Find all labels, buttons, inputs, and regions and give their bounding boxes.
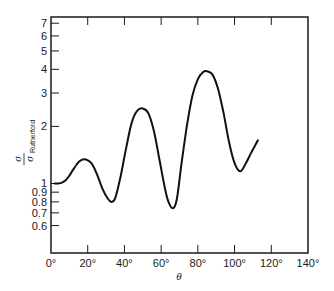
x-tick-label: 20° [79, 257, 96, 269]
x-tick-label: 120° [260, 257, 283, 269]
y-tick-label: 0.6 [32, 220, 47, 232]
data-series-line [55, 71, 258, 209]
y-label-denominator: σ [23, 156, 35, 162]
x-tick-label: 0° [46, 257, 57, 269]
y-tick-label: 6 [41, 30, 47, 42]
x-axis-ticks: 0°20°40°60°80°100°120°140° [46, 17, 320, 269]
y-tick-label: 5 [41, 45, 47, 57]
y-tick-label: 4 [41, 63, 47, 75]
y-label-subscript: Rutherford [29, 120, 36, 153]
x-tick-label: 60° [153, 257, 170, 269]
x-tick-label: 100° [223, 257, 246, 269]
y-tick-label: 2 [41, 120, 47, 132]
y-tick-label: 1 [41, 177, 47, 189]
y-tick-label: 3 [41, 87, 47, 99]
plot-frame [51, 17, 308, 253]
y-label-numerator: σ [11, 156, 23, 162]
x-tick-label: 140° [297, 257, 320, 269]
chart: 0.60.70.80.91234567 0°20°40°60°80°100°12… [0, 0, 334, 291]
y-axis-label: σ σ Rutherford [11, 120, 36, 165]
x-axis-label: θ [176, 270, 182, 282]
x-tick-label: 80° [190, 257, 207, 269]
y-tick-label: 0.7 [32, 207, 47, 219]
y-tick-label: 7 [41, 17, 47, 29]
x-tick-label: 40° [116, 257, 133, 269]
